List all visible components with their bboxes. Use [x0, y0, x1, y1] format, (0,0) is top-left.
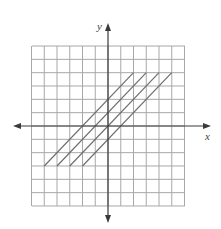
- arrow-left-icon: [13, 123, 21, 129]
- arrow-down-icon: [105, 215, 111, 223]
- arrow-right-icon: [203, 123, 211, 129]
- series-line: [44, 73, 133, 166]
- x-axis-label: x: [204, 130, 210, 142]
- series-line: [57, 73, 146, 166]
- series-line: [83, 73, 172, 166]
- y-axis-label: y: [96, 20, 102, 32]
- coordinate-plane: y x: [0, 0, 221, 229]
- arrow-up-icon: [105, 23, 111, 31]
- series-line: [70, 73, 159, 166]
